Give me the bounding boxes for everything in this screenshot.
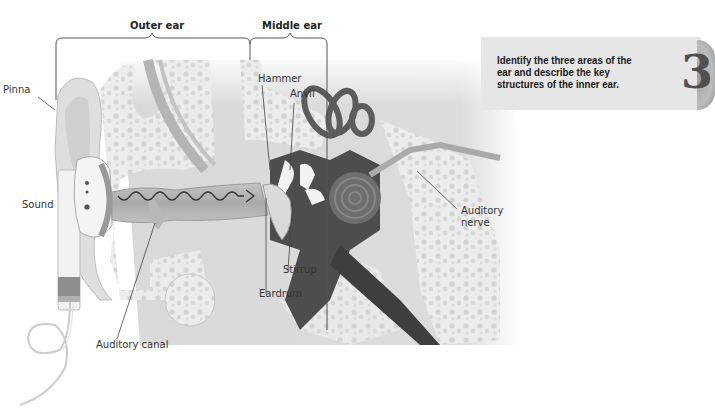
region-label-middle-ear: Middle ear (262, 20, 322, 31)
label-auditory-nerve-line2: nerve (461, 217, 490, 228)
label-auditory-nerve-line1: Auditory (461, 205, 503, 216)
label-auditory-canal: Auditory canal (96, 339, 168, 350)
learning-objective-text: Identify the three areas of the ear and … (497, 54, 644, 90)
label-stirrup: Stirrup (283, 264, 317, 275)
region-label-outer-ear: Outer ear (130, 20, 184, 31)
label-sound: Sound (22, 199, 54, 210)
learning-objective-box: Identify the three areas of the ear and … (481, 37, 701, 110)
objective-number: 3 (681, 42, 713, 102)
label-anvil: Anvil (290, 88, 315, 99)
label-eardrum: Eardrum (259, 288, 302, 299)
label-hammer: Hammer (258, 73, 301, 84)
label-pinna: Pinna (3, 84, 30, 95)
